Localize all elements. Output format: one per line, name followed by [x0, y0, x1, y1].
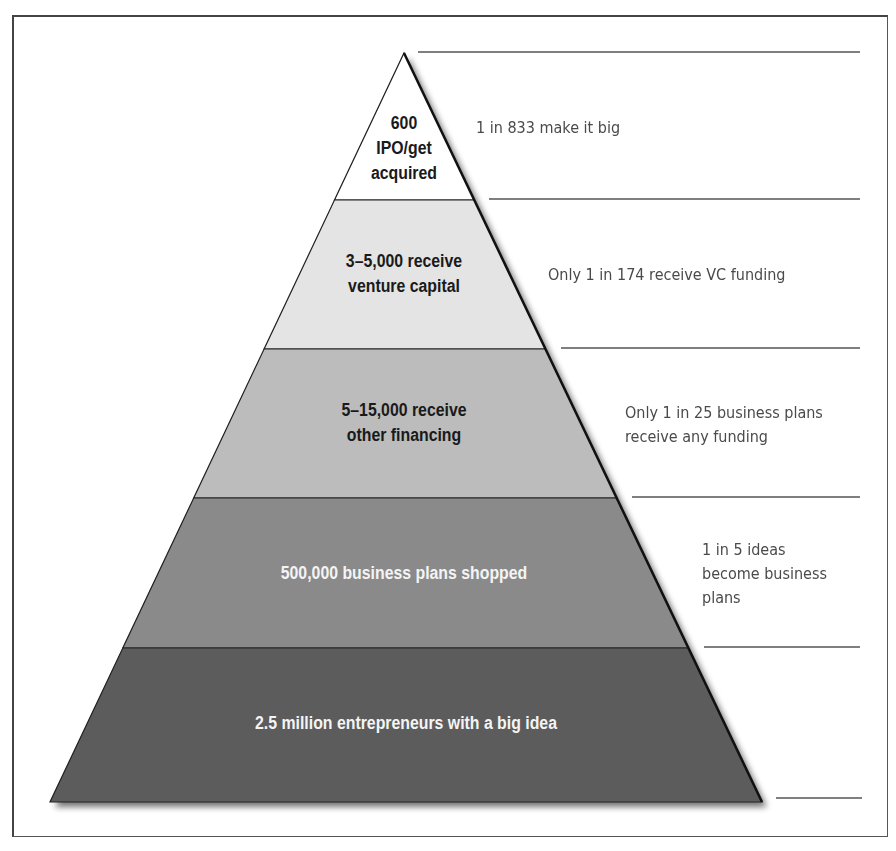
- tier-label-1: 600 IPO/get acquired: [371, 111, 437, 186]
- tier-1-line-2: IPO/get: [371, 136, 437, 161]
- tier-2-line-1: 3–5,000 receive: [346, 249, 462, 274]
- side-note-4: 1 in 5 ideas become business plans: [702, 538, 827, 610]
- tier-3-line-1: 5–15,000 receive: [341, 398, 466, 423]
- side-note-1: 1 in 833 make it big: [476, 116, 620, 140]
- tier-2-line-2: venture capital: [346, 274, 462, 299]
- side-note-2: Only 1 in 174 receive VC funding: [548, 263, 785, 287]
- note-4-line-2: become business: [702, 562, 827, 586]
- tier-label-3: 5–15,000 receive other financing: [341, 398, 466, 448]
- tier-1-line-1: 600: [371, 111, 437, 136]
- tier-4-line-1: 500,000 business plans shopped: [281, 561, 527, 586]
- note-3-line-2: receive any funding: [625, 425, 823, 449]
- note-2-line-1: Only 1 in 174 receive VC funding: [548, 263, 785, 287]
- note-4-line-3: plans: [702, 586, 827, 610]
- tier-label-5: 2.5 million entrepreneurs with a big ide…: [255, 711, 557, 736]
- side-note-3: Only 1 in 25 business plans receive any …: [625, 401, 823, 449]
- tier-label-2: 3–5,000 receive venture capital: [346, 249, 462, 299]
- tier-5-line-1: 2.5 million entrepreneurs with a big ide…: [255, 711, 557, 736]
- tier-1-line-3: acquired: [371, 161, 437, 186]
- note-1-line-1: 1 in 833 make it big: [476, 116, 620, 140]
- note-4-line-1: 1 in 5 ideas: [702, 538, 827, 562]
- tier-3-line-2: other financing: [341, 423, 466, 448]
- note-3-line-1: Only 1 in 25 business plans: [625, 401, 823, 425]
- tier-label-4: 500,000 business plans shopped: [281, 561, 527, 586]
